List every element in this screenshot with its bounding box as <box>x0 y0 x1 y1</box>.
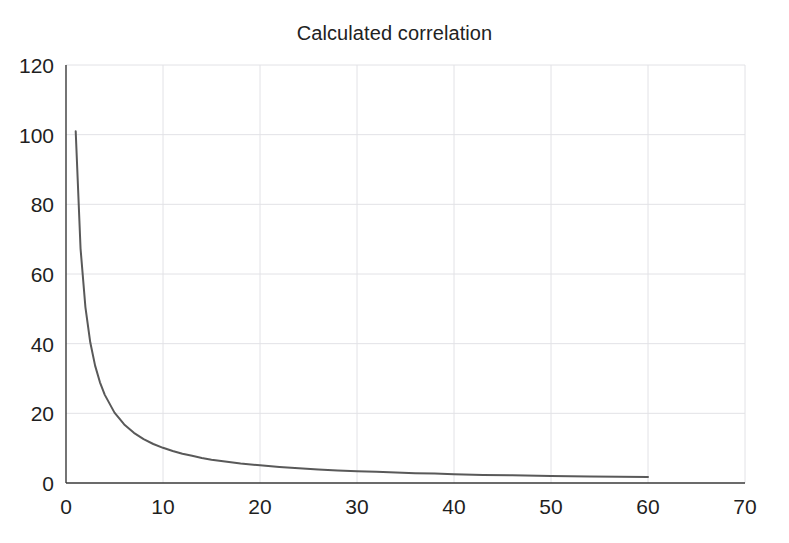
x-tick-label: 20 <box>248 495 271 518</box>
y-tick-label: 80 <box>31 193 54 216</box>
y-tick-label: 40 <box>31 333 54 356</box>
x-tick-label: 40 <box>442 495 465 518</box>
plot-area: 020406080100120 010203040506070 <box>0 0 789 543</box>
y-tick-label: 120 <box>19 54 54 77</box>
data-curve-group <box>76 131 648 477</box>
x-tick-label: 10 <box>151 495 174 518</box>
series-line-0 <box>76 131 648 477</box>
gridlines <box>66 65 745 483</box>
chart-figure: Calculated correlation 020406080100120 0… <box>0 0 789 543</box>
x-tick-label: 50 <box>539 495 562 518</box>
y-tick-label: 20 <box>31 402 54 425</box>
y-tick-label: 60 <box>31 263 54 286</box>
x-axis-tick-labels: 010203040506070 <box>60 495 757 518</box>
y-tick-label: 100 <box>19 124 54 147</box>
x-tick-label: 70 <box>733 495 756 518</box>
x-tick-label: 30 <box>345 495 368 518</box>
x-tick-label: 0 <box>60 495 72 518</box>
y-tick-label: 0 <box>42 472 54 495</box>
x-tick-label: 60 <box>636 495 659 518</box>
y-axis-tick-labels: 020406080100120 <box>19 54 54 495</box>
